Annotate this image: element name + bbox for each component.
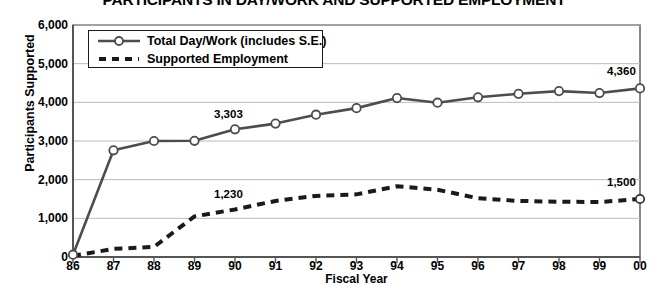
x-axis-title: Fiscal Year (73, 272, 640, 286)
x-tick-label: 97 (502, 260, 536, 272)
x-tick-label: 94 (380, 260, 414, 272)
series-marker-total-day-work (69, 250, 77, 258)
series-marker-total-day-work (595, 89, 603, 97)
legend-item-supported-employment: Supported Employment (97, 50, 288, 68)
series-marker-total-day-work (231, 125, 239, 133)
series-marker-total-day-work (190, 137, 198, 145)
x-tick-label: 95 (421, 260, 455, 272)
x-tick-label: 96 (461, 260, 495, 272)
series-marker-total-day-work (393, 94, 401, 102)
series-marker-total-day-work (636, 84, 644, 92)
x-tick-label: 93 (340, 260, 374, 272)
legend-line-solid-icon (97, 33, 141, 49)
chart-container: PARTICIPANTS IN DAY/WORK AND SUPPORTED E… (0, 0, 668, 297)
legend-item-total-day-work: Total Day/Work (includes S.E.) (97, 32, 326, 50)
data-label: 1,500 (607, 177, 636, 189)
x-tick-label: 99 (583, 260, 617, 272)
series-marker-total-day-work (150, 137, 158, 145)
x-tick-label: 88 (137, 260, 171, 272)
series-marker-supported-employment (636, 195, 644, 203)
x-tick-label: 86 (56, 260, 90, 272)
chart-legend: Total Day/Work (includes S.E.) Supported… (88, 30, 323, 68)
x-tick-label: 89 (178, 260, 212, 272)
x-tick-label: 00 (623, 260, 657, 272)
series-marker-total-day-work (514, 90, 522, 98)
legend-label-1: Supported Employment (147, 52, 288, 66)
x-tick-label: 98 (542, 260, 576, 272)
series-line-supported-employment (73, 186, 640, 256)
data-label: 4,360 (607, 66, 636, 78)
series-marker-total-day-work (474, 93, 482, 101)
series-marker-total-day-work (271, 119, 279, 127)
series-marker-total-day-work (312, 111, 320, 119)
series-marker-total-day-work (109, 146, 117, 154)
series-marker-total-day-work (555, 87, 563, 95)
series-marker-total-day-work (433, 99, 441, 107)
series-line-total-day-work (73, 88, 640, 254)
x-tick-label: 92 (299, 260, 333, 272)
data-label: 1,230 (214, 189, 243, 201)
x-tick-label: 91 (259, 260, 293, 272)
legend-label-0: Total Day/Work (includes S.E.) (147, 34, 326, 48)
legend-line-dashed-icon (97, 51, 141, 67)
x-tick-label: 87 (97, 260, 131, 272)
x-tick-label: 90 (218, 260, 252, 272)
data-label: 3,303 (214, 109, 243, 121)
series-marker-total-day-work (352, 104, 360, 112)
